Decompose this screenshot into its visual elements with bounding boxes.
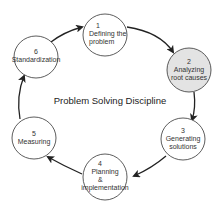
arrow-3-to-4 [134,156,166,176]
svg-text:5: 5 [32,130,36,137]
arrow-2-to-3 [192,92,195,120]
cycle-diagram: 1 Defining the problem 2 Analyzing root … [0,0,220,212]
diagram-title: Problem Solving Discipline [54,95,166,106]
svg-text:Defining the: Defining the [89,30,126,38]
node-2-analyzing-root-causes: 2 Analyzing root causes [167,48,211,92]
svg-text:2: 2 [187,58,191,65]
svg-text:Analyzing: Analyzing [174,66,204,74]
node-5-measuring: 5 Measuring [12,117,56,159]
svg-text:Standardization: Standardization [12,56,61,63]
node-1-defining-the-problem: 1 Defining the problem [83,14,127,56]
svg-text:Measuring: Measuring [18,138,51,146]
svg-text:4: 4 [98,160,102,167]
arrow-4-to-5 [48,157,82,174]
arrow-6-to-1 [51,27,82,42]
svg-text:Generating: Generating [166,135,201,143]
arrow-5-to-6 [19,76,24,119]
svg-text:6: 6 [34,48,38,55]
svg-text:root causes: root causes [171,74,208,81]
svg-text:Planning: Planning [91,168,118,176]
svg-text:implementation: implementation [81,184,129,192]
node-4-planning-implementation: 4 Planning & implementation [81,154,129,200]
svg-text:solutions: solutions [169,143,197,150]
svg-text:1: 1 [96,22,100,29]
svg-text:&: & [98,176,103,183]
node-6-standardization: 6 Standardization [12,36,61,78]
node-3-generating-solutions: 3 Generating solutions [161,118,205,160]
arrow-1-to-2 [127,27,173,52]
svg-text:problem: problem [89,38,114,46]
svg-text:3: 3 [181,127,185,134]
